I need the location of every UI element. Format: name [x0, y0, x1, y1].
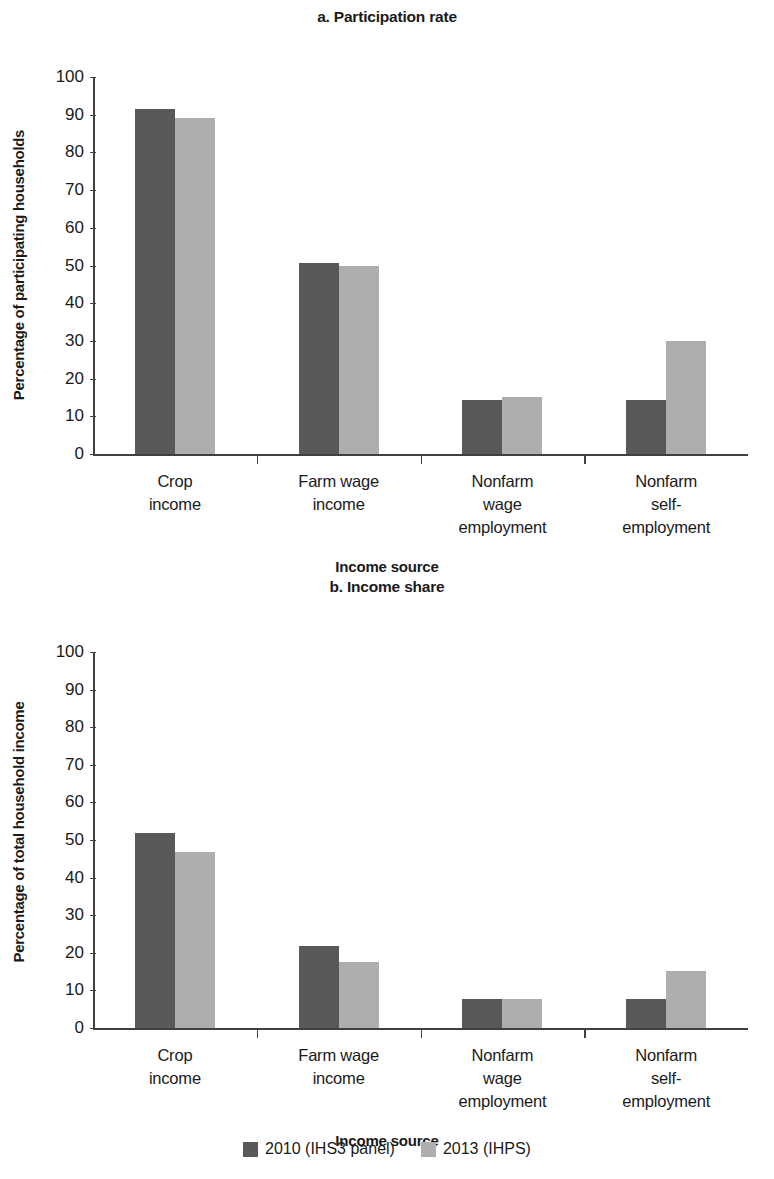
x-category-label: Cropincome [93, 470, 257, 516]
bar [462, 400, 502, 454]
x-category-label-line: Nonfarm [421, 1044, 585, 1067]
x-category-label: Nonfarmwageemployment [421, 1044, 585, 1113]
x-category-label-line: Crop [93, 470, 257, 493]
bar [135, 109, 175, 454]
x-category-label-line: wage [421, 493, 585, 516]
bar-group [93, 77, 257, 454]
x-tick-mark [257, 1029, 258, 1038]
y-tick-label: 10 [38, 981, 84, 999]
y-tick-label: 0 [38, 1019, 84, 1037]
chart-panel-income-share: b. Income share Percentage of total hous… [0, 570, 774, 1130]
legend-swatch-icon [421, 1142, 436, 1157]
panel-b-y-axis-title: Percentage of total household income [6, 642, 32, 1022]
bar [666, 341, 706, 454]
y-tick-label: 30 [38, 332, 84, 350]
legend-item: 2010 (IHS3 panel) [243, 1140, 395, 1158]
x-category-label-line: income [257, 493, 421, 516]
x-category-label-line: Nonfarm [421, 470, 585, 493]
y-tick-label: 10 [38, 407, 84, 425]
chart-panel-participation-rate: a. Participation rate Percentage of part… [0, 0, 774, 570]
bar [299, 946, 339, 1028]
y-tick-label: 60 [38, 219, 84, 237]
y-tick-label: 70 [38, 181, 84, 199]
bar-group [257, 77, 421, 454]
x-tick-mark [421, 1029, 422, 1038]
bar [462, 999, 502, 1028]
bar-group [93, 652, 257, 1028]
panel-b-y-ticks: 0102030405060708090100 [38, 600, 84, 1058]
x-category-label-line: Nonfarm [584, 470, 748, 493]
x-category-label-line: Farm wage [257, 1044, 421, 1067]
y-tick-label: 80 [38, 718, 84, 736]
y-tick-label: 20 [38, 944, 84, 962]
x-category-label: Farm wageincome [257, 470, 421, 516]
bar [626, 999, 666, 1028]
x-category-label: Nonfarmself-employment [584, 1044, 748, 1113]
bar-group [584, 77, 748, 454]
y-tick-label: 0 [38, 445, 84, 463]
bar [339, 962, 379, 1028]
y-tick-label: 100 [38, 643, 84, 661]
x-category-label: Nonfarmwageemployment [421, 470, 585, 539]
x-category-label-line: employment [421, 516, 585, 539]
x-category-label-line: self- [584, 1067, 748, 1090]
bar [299, 263, 339, 454]
panel-a-plot: Percentage of participating households 0… [0, 30, 774, 530]
panel-b-plot: Percentage of total household income 010… [0, 600, 774, 1090]
x-category-label-line: self- [584, 493, 748, 516]
x-tick-mark [421, 455, 422, 464]
panel-b-bars [93, 652, 748, 1028]
x-category-label-line: income [93, 493, 257, 516]
panel-a-y-ticks: 0102030405060708090100 [38, 30, 84, 484]
bar [135, 833, 175, 1028]
bar [626, 400, 666, 454]
bar-group [421, 77, 585, 454]
x-tick-mark [257, 455, 258, 464]
x-category-label-line: Farm wage [257, 470, 421, 493]
legend-item: 2013 (IHPS) [421, 1140, 531, 1158]
bar [502, 397, 542, 454]
panel-a-title: a. Participation rate [0, 0, 774, 30]
y-tick-label: 50 [38, 257, 84, 275]
x-category-label-line: income [257, 1067, 421, 1090]
panel-a-bars [93, 77, 748, 454]
legend-label: 2013 (IHPS) [443, 1140, 531, 1158]
y-tick-label: 20 [38, 370, 84, 388]
y-tick-label: 40 [38, 869, 84, 887]
y-tick-label: 70 [38, 756, 84, 774]
y-tick-label: 100 [38, 68, 84, 86]
bar [502, 999, 542, 1028]
y-tick-label: 80 [38, 143, 84, 161]
y-tick-label: 50 [38, 831, 84, 849]
panel-a-y-axis-title: Percentage of participating households [6, 75, 32, 455]
bar-group [584, 652, 748, 1028]
bar [339, 266, 379, 454]
x-category-label-line: Nonfarm [584, 1044, 748, 1067]
x-category-label-line: employment [584, 1090, 748, 1113]
legend-label: 2010 (IHS3 panel) [265, 1140, 395, 1158]
bar [175, 852, 215, 1028]
chart-legend: 2010 (IHS3 panel)2013 (IHPS) [0, 1140, 774, 1158]
bar-group [421, 652, 585, 1028]
y-tick-label: 40 [38, 294, 84, 312]
x-category-label-line: wage [421, 1067, 585, 1090]
bar-group [257, 652, 421, 1028]
panel-b-title: b. Income share [0, 570, 774, 600]
x-category-label: Nonfarmself-employment [584, 470, 748, 539]
x-category-label: Farm wageincome [257, 1044, 421, 1090]
x-category-label-line: Crop [93, 1044, 257, 1067]
bar [666, 971, 706, 1028]
y-tick-label: 30 [38, 906, 84, 924]
x-tick-mark [584, 1029, 585, 1038]
panel-a-category-labels: CropincomeFarm wageincomeNonfarmwageempl… [0, 470, 774, 556]
x-tick-mark [584, 455, 585, 464]
y-tick-label: 90 [38, 106, 84, 124]
y-tick-label: 60 [38, 793, 84, 811]
legend-swatch-icon [243, 1142, 258, 1157]
bar [175, 118, 215, 454]
panel-b-category-labels: CropincomeFarm wageincomeNonfarmwageempl… [0, 1044, 774, 1130]
x-category-label-line: employment [584, 516, 748, 539]
x-category-label-line: employment [421, 1090, 585, 1113]
y-tick-label: 90 [38, 681, 84, 699]
x-category-label-line: income [93, 1067, 257, 1090]
